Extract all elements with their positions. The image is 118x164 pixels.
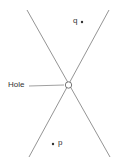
hole-label: Hole — [8, 81, 24, 89]
point-q-dot — [81, 21, 83, 23]
point-q-label: q — [73, 17, 77, 25]
point-p-dot — [52, 143, 54, 145]
hole-leader-line — [29, 85, 64, 86]
point-p-label: p — [58, 139, 62, 147]
hole-circle — [65, 82, 71, 88]
